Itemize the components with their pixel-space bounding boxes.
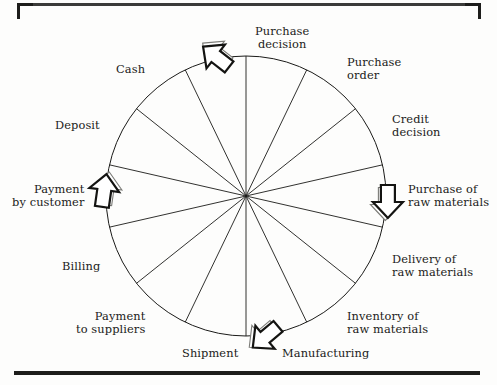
arrow-bottom xyxy=(240,313,288,361)
segment-label-inventory-of-raw-materials: Inventory of raw materials xyxy=(347,310,428,336)
wheel-spoke-payment-by-customer xyxy=(110,196,246,227)
segment-label-purchase-order: Purchase order xyxy=(347,56,401,82)
wheel-spoke-blank-top-left xyxy=(185,70,246,196)
wheel-spoke-payment-to-suppliers xyxy=(185,196,246,322)
arrow-left xyxy=(87,170,124,210)
wheel-spoke-credit-decision xyxy=(246,109,355,196)
arrow-top xyxy=(192,31,240,78)
segment-label-purchase-decision: Purchase decision xyxy=(255,25,309,51)
wheel-spoke-deposit xyxy=(110,165,246,196)
figure-page: Purchase decisionPurchase orderCredit de… xyxy=(0,0,497,385)
segment-label-payment-to-suppliers: Payment to suppliers xyxy=(76,310,145,336)
segment-label-deposit: Deposit xyxy=(55,119,100,132)
arrow-right xyxy=(370,185,403,221)
wheel-spoke-manufacturing xyxy=(246,196,307,322)
wheel-spokes xyxy=(110,56,383,336)
wheel-spoke-purchase-of-raw-materials xyxy=(246,165,382,196)
segment-label-manufacturing: Manufacturing xyxy=(282,347,369,360)
wheel-spoke-purchase-order xyxy=(246,70,307,196)
segment-label-shipment: Shipment xyxy=(182,347,238,360)
wheel-spoke-billing xyxy=(137,196,246,283)
segment-label-billing: Billing xyxy=(62,260,100,273)
segment-label-payment-by-customer: Payment by customer xyxy=(12,183,84,209)
segment-label-purchase-of-raw-materials: Purchase of raw materials xyxy=(408,183,489,209)
wheel-spoke-inventory-of-raw-materials xyxy=(246,196,355,283)
segment-label-cash: Cash xyxy=(116,63,145,76)
wheel-spoke-cash xyxy=(137,109,246,196)
segment-label-delivery-of-raw-materials: Delivery of raw materials xyxy=(392,253,473,279)
segment-label-credit-decision: Credit decision xyxy=(392,113,441,139)
wheel-spoke-delivery-of-raw-materials xyxy=(246,196,382,227)
